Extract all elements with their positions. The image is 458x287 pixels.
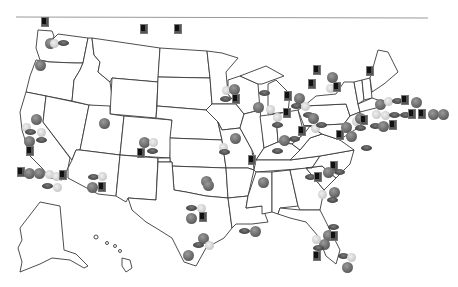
hockey-icon[interactable] (298, 126, 306, 136)
basketball-icon[interactable] (279, 135, 290, 146)
hockey-icon[interactable] (418, 109, 426, 119)
football-icon[interactable] (219, 149, 230, 155)
football-icon[interactable] (355, 125, 366, 131)
hockey-icon[interactable] (389, 120, 397, 130)
basketball-icon[interactable] (378, 121, 389, 132)
hockey-icon[interactable] (283, 108, 291, 118)
football-icon[interactable] (36, 137, 47, 143)
football-icon[interactable] (361, 145, 372, 151)
basketball-icon[interactable] (250, 226, 261, 237)
hockey-icon[interactable] (137, 148, 145, 158)
baseball-icon[interactable] (312, 235, 321, 244)
hockey-icon[interactable] (140, 24, 148, 34)
hockey-icon[interactable] (232, 94, 240, 104)
football-icon[interactable] (42, 183, 53, 189)
football-icon[interactable] (186, 205, 197, 211)
basketball-icon[interactable] (31, 114, 42, 125)
hockey-icon[interactable] (330, 231, 338, 241)
baseball-icon[interactable] (347, 253, 356, 262)
basketball-icon[interactable] (346, 131, 357, 142)
hockey-icon[interactable] (59, 170, 67, 180)
football-icon[interactable] (25, 129, 36, 135)
hockey-icon[interactable] (308, 79, 316, 89)
baseball-icon[interactable] (205, 241, 214, 250)
football-icon[interactable] (316, 122, 327, 128)
basketball-icon[interactable] (203, 180, 214, 191)
hockey-icon[interactable] (313, 65, 321, 75)
basketball-icon[interactable] (186, 213, 197, 224)
football-icon[interactable] (259, 90, 270, 96)
hockey-icon[interactable] (41, 17, 49, 27)
basketball-icon[interactable] (411, 97, 422, 108)
hockey-icon[interactable] (336, 130, 344, 140)
football-icon[interactable] (389, 112, 400, 118)
football-icon[interactable] (147, 148, 158, 154)
baseball-icon[interactable] (273, 113, 282, 122)
hockey-icon[interactable] (98, 182, 106, 192)
basketball-icon[interactable] (342, 262, 353, 273)
baseball-icon[interactable] (53, 183, 62, 192)
hockey-icon[interactable] (248, 155, 256, 165)
hockey-icon[interactable] (174, 24, 182, 34)
football-icon[interactable] (272, 148, 283, 154)
football-icon[interactable] (289, 136, 300, 142)
football-icon[interactable] (327, 197, 338, 203)
us-map (0, 0, 458, 287)
basketball-icon[interactable] (35, 60, 46, 71)
basketball-icon[interactable] (34, 168, 45, 179)
hockey-icon[interactable] (314, 172, 322, 182)
canada-border-line (16, 17, 428, 18)
baseball-icon[interactable] (149, 138, 158, 147)
baseball-icon[interactable] (318, 190, 327, 199)
baseball-icon[interactable] (37, 128, 46, 137)
football-icon[interactable] (328, 224, 339, 230)
hockey-icon[interactable] (26, 146, 34, 156)
football-icon[interactable] (193, 242, 204, 248)
hockey-icon[interactable] (360, 115, 368, 125)
baseball-icon[interactable] (301, 102, 310, 111)
hockey-icon[interactable] (366, 66, 374, 76)
hockey-icon[interactable] (199, 212, 207, 222)
hockey-icon[interactable] (333, 82, 341, 92)
hockey-icon[interactable] (408, 109, 416, 119)
basketball-icon[interactable] (183, 250, 194, 261)
baseball-icon[interactable] (372, 110, 381, 119)
hockey-icon[interactable] (401, 95, 409, 105)
basketball-icon[interactable] (323, 167, 334, 178)
basketball-icon[interactable] (87, 182, 98, 193)
basketball-icon[interactable] (99, 118, 110, 129)
football-icon[interactable] (239, 228, 250, 234)
hockey-icon[interactable] (284, 91, 292, 101)
basketball-icon[interactable] (438, 109, 449, 120)
football-icon[interactable] (58, 40, 69, 46)
basketball-icon[interactable] (253, 102, 264, 113)
football-icon[interactable] (334, 169, 345, 175)
basketball-icon[interactable] (230, 133, 241, 144)
baseball-icon[interactable] (266, 105, 275, 114)
basketball-icon[interactable] (258, 177, 269, 188)
baseball-icon[interactable] (98, 172, 107, 181)
hockey-icon[interactable] (313, 251, 321, 261)
football-icon[interactable] (272, 122, 283, 128)
football-icon[interactable] (220, 96, 231, 102)
